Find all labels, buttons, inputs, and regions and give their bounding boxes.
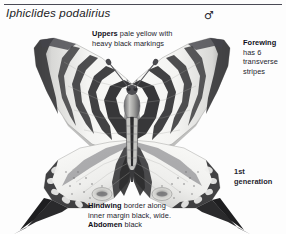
annotation-hindwing-line2: inner margin black, wide.: [88, 211, 218, 221]
annotation-hindwing-line1: border along: [122, 201, 166, 210]
page-title: Iphiclides podalirius: [6, 7, 111, 19]
annotation-forewing-line2: has 6: [243, 48, 286, 58]
annotation-forewing-line4: stripes: [243, 67, 286, 77]
annotation-generation-line1: 1st: [234, 167, 284, 177]
header-divider: [4, 4, 282, 5]
annotation-uppers: Uppers pale yellow with heavy black mark…: [92, 29, 192, 48]
annotation-hindwing: Hindwing border along inner margin black…: [88, 201, 218, 230]
annotation-forewing-line3: transverse: [243, 57, 286, 67]
annotation-uppers-line2: heavy black markings: [92, 39, 192, 49]
annotation-abdomen-rest: black: [122, 220, 142, 229]
annotation-generation-line2: generation: [234, 177, 284, 187]
annotation-uppers-lead: Uppers: [92, 29, 118, 38]
annotation-hindwing-lead: Hindwing: [88, 201, 122, 210]
annotation-abdomen-lead: Abdomen: [88, 220, 122, 229]
right-forewing-group: [132, 38, 230, 156]
guide-page: Iphiclides podalirius ♂: [0, 0, 286, 234]
male-symbol: ♂: [204, 9, 214, 22]
annotation-forewing-lead: Forewing: [243, 38, 276, 47]
annotation-uppers-line1: pale yellow with: [118, 29, 173, 38]
left-forewing-group: [34, 38, 132, 156]
annotation-generation: 1st generation: [234, 167, 284, 186]
annotation-forewing: Forewing has 6 transverse stripes: [243, 38, 286, 76]
